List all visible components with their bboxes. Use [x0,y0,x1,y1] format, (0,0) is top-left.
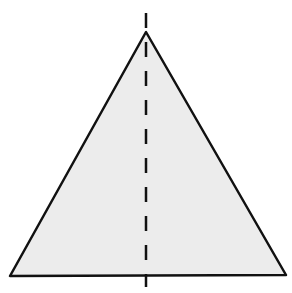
triangle-shape [10,32,286,276]
triangle-symmetry-diagram [0,0,292,293]
